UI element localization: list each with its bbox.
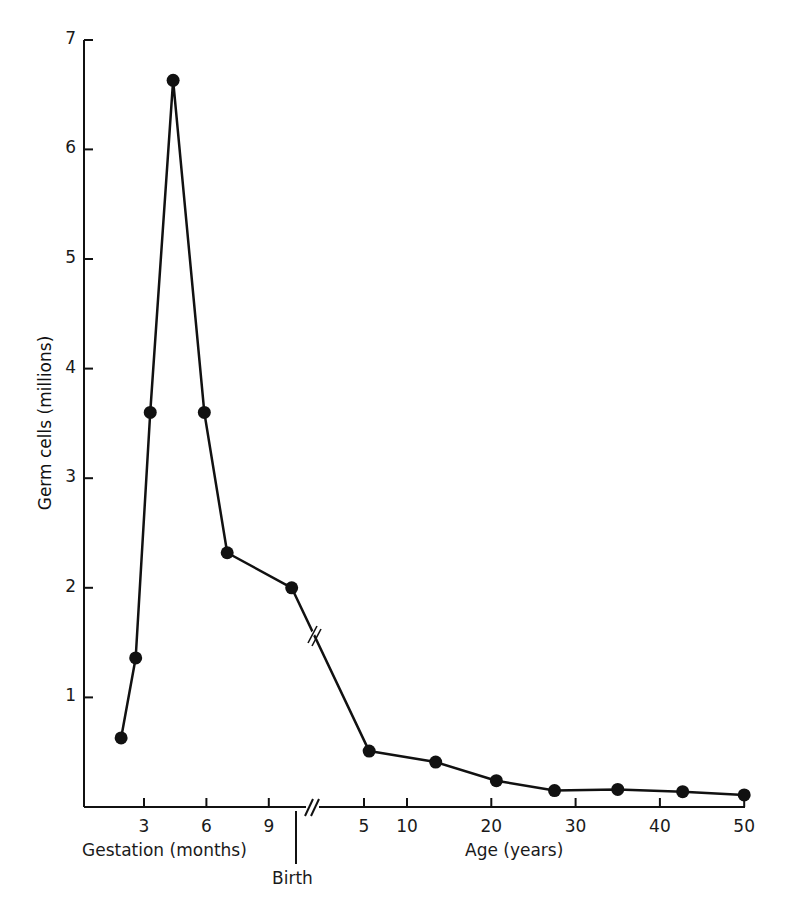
y-tick-label: 6 [46, 137, 76, 157]
y-tick-label: 1 [46, 685, 76, 705]
y-tick-label: 7 [46, 28, 76, 48]
x-tick-label: 20 [471, 816, 511, 836]
x-tick-label: 9 [249, 816, 289, 836]
x-tick-label: 50 [724, 816, 764, 836]
data-point [167, 74, 180, 87]
gestation-label: Gestation (months) [82, 840, 247, 860]
data-point [115, 731, 128, 744]
data-point [676, 785, 689, 798]
data-point [363, 745, 376, 758]
germ-cells-chart [0, 0, 797, 914]
data-point [738, 788, 751, 801]
data-point [611, 783, 624, 796]
y-tick-label: 5 [46, 247, 76, 267]
x-tick-label: 40 [640, 816, 680, 836]
data-point [198, 406, 211, 419]
x-tick-label: 6 [186, 816, 226, 836]
x-tick-label: 10 [387, 816, 427, 836]
x-tick-label: 3 [124, 816, 164, 836]
data-point [285, 581, 298, 594]
data-point [129, 651, 142, 664]
data-points [115, 74, 751, 802]
y-axis-label: Germ cells (millions) [35, 331, 55, 515]
data-point [548, 784, 561, 797]
birth-label: Birth [272, 868, 313, 888]
age-label: Age (years) [465, 840, 563, 860]
x-axis-break-icon [305, 799, 319, 816]
data-point [429, 756, 442, 769]
data-line [121, 80, 744, 795]
x-tick-label: 5 [344, 816, 384, 836]
x-tick-label: 30 [556, 816, 596, 836]
data-point [221, 546, 234, 559]
y-ticks [84, 149, 93, 697]
data-point [490, 774, 503, 787]
data-point [144, 406, 157, 419]
y-tick-label: 2 [46, 576, 76, 596]
x-ticks [144, 798, 744, 807]
